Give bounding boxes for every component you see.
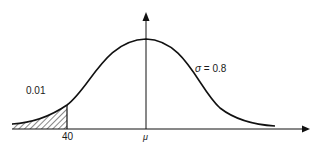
sigma-annotation: σ = 0.8 [195,64,226,74]
y-axis-arrow-icon [143,12,150,21]
threshold-tick-label: 40 [62,132,73,142]
mean-tick-label: μ [143,133,148,142]
shaded-tail-region [12,100,68,130]
sigma-value: = 0.8 [204,63,227,74]
tail-probability-label: 0.01 [26,86,45,96]
sigma-symbol: σ [195,63,201,74]
normal-curve-diagram [0,0,315,148]
bell-curve [12,39,275,126]
x-axis-arrow-icon [302,126,310,133]
